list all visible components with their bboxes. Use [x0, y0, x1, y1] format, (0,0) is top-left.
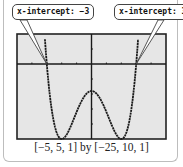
window-caption: [−5, 5, 1] by [−25, 10, 1]: [0, 141, 183, 153]
x-intercept-right-callout: x-intercept: 3: [114, 4, 183, 20]
x-intercept-left-callout: x-intercept: −3: [12, 4, 94, 20]
